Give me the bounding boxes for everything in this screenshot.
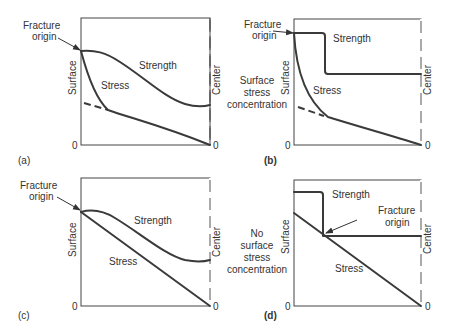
panel-a-strength-label: Strength — [139, 60, 177, 71]
panel-c-stress-label: Stress — [109, 256, 137, 267]
panel-a-zero-left: 0 — [72, 140, 78, 151]
panel-d: Fracture origin Strength Stress No surfa… — [227, 180, 433, 321]
panel-c-arrow-icon — [57, 197, 80, 210]
panel-b-annotation-line1: Fracture — [244, 19, 282, 30]
stress-strength-diagram: Fracture origin Strength Stress Surface … — [0, 0, 449, 336]
panel-d-strength-label: Strength — [332, 189, 370, 200]
panel-b-center-label: Center — [422, 64, 433, 95]
panel-a-surface-label: Surface — [67, 60, 78, 95]
panel-a-label: (a) — [18, 155, 30, 166]
panel-c-zero-right: 0 — [213, 301, 219, 312]
panel-b: Fracture origin Strength Stress Surface … — [227, 19, 433, 166]
panel-b-side-note-line3: concentration — [227, 99, 287, 110]
panel-c-frame — [81, 178, 210, 306]
panel-b-surface-label: Surface — [280, 60, 291, 95]
panel-d-annotation-line2: origin — [385, 217, 409, 228]
panel-b-zero-right: 0 — [425, 140, 431, 151]
panel-c-surface-label: Surface — [67, 222, 78, 257]
panel-b-annotation-line2: origin — [252, 30, 276, 41]
panel-a-zero-right: 0 — [213, 140, 219, 151]
panel-b-side-note-line1: Surface — [240, 75, 275, 86]
panel-d-zero-right: 0 — [425, 301, 431, 312]
panel-b-strength-label: Strength — [333, 33, 371, 44]
panel-c-zero-left: 0 — [72, 301, 78, 312]
panel-d-side-note-line1: No — [251, 228, 264, 239]
panel-d-zero-left: 0 — [285, 301, 291, 312]
panel-d-center-label: Center — [422, 223, 433, 254]
panel-d-side-note-line4: concentration — [227, 264, 287, 275]
panel-c-label: (c) — [18, 310, 30, 321]
panel-d-surface-label: Surface — [280, 219, 291, 254]
panel-c-center-label: Center — [211, 226, 222, 257]
panel-b-stress-label: Stress — [313, 85, 341, 96]
panel-d-label: (d) — [264, 310, 277, 321]
panel-b-label: (b) — [264, 155, 277, 166]
panel-a-annotation-line1: Fracture — [23, 20, 61, 31]
panel-a-arrow-icon — [58, 38, 80, 50]
panel-b-side-note-line2: stress — [244, 87, 271, 98]
panel-a: Fracture origin Strength Stress Surface … — [18, 18, 222, 166]
panel-d-annotation-line1: Fracture — [378, 205, 416, 216]
panel-c-strength-label: Strength — [134, 215, 172, 226]
panel-c: Fracture origin Strength Stress Surface … — [18, 178, 222, 321]
panel-a-center-label: Center — [211, 64, 222, 95]
panel-c-stress-curve — [81, 212, 210, 306]
panel-c-annotation-line1: Fracture — [20, 180, 58, 191]
panel-a-stress-label: Stress — [101, 80, 129, 91]
panel-d-arrow-icon — [326, 220, 357, 233]
panel-d-side-note-line2: surface — [241, 240, 274, 251]
panel-b-zero-left: 0 — [285, 140, 291, 151]
panel-a-annotation-line2: origin — [32, 31, 56, 42]
panel-d-side-note-line3: stress — [244, 252, 271, 263]
panel-c-annotation-line2: origin — [29, 191, 53, 202]
panel-d-stress-label: Stress — [335, 263, 363, 274]
